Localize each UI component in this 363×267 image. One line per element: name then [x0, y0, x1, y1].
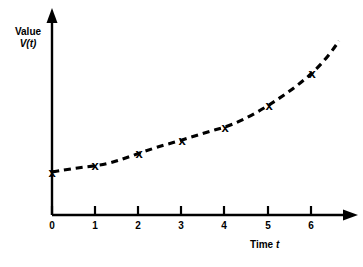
x-tick-label-5: 5 [258, 220, 278, 231]
x-axis-label-variable: t [276, 239, 279, 250]
y-axis-label-line2: V(t) [8, 38, 48, 50]
data-point-0: x [48, 165, 56, 180]
x-tick-label-2: 2 [128, 220, 148, 231]
y-axis-arrowhead [47, 8, 58, 23]
x-tick-label-1: 1 [85, 220, 105, 231]
x-axis-ticks [52, 206, 311, 215]
x-tick-label-4: 4 [214, 220, 234, 231]
data-point-1: x [91, 158, 99, 173]
data-point-2: x [135, 146, 143, 161]
data-point-6: x [308, 66, 316, 81]
x-axis-label: Time t [250, 239, 279, 251]
x-tick-label-6: 6 [301, 220, 321, 231]
data-point-5: x [265, 98, 273, 113]
data-point-4: x [221, 120, 229, 135]
y-axis-label: Value V(t) [8, 26, 48, 50]
x-tick-label-3: 3 [171, 220, 191, 231]
data-point-3: x [178, 133, 186, 148]
chart-figure: x x x x x x x Value V(t) Time t 0 1 2 3 … [0, 0, 363, 267]
y-axis-label-line1: Value [15, 26, 41, 37]
x-tick-label-0: 0 [42, 220, 62, 231]
x-axis-label-text: Time [250, 239, 276, 250]
data-series-line [52, 41, 339, 172]
data-point-markers: x x x x x x x [48, 66, 316, 180]
x-axis-arrowhead [343, 210, 358, 221]
